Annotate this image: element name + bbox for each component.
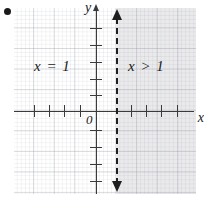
solution-region-shading [117, 8, 196, 194]
y-axis-line [96, 10, 97, 194]
bullet-marker-icon [4, 8, 11, 15]
x-tick-negative-1 [80, 105, 81, 117]
y-axis-arrow-icon [93, 4, 99, 11]
x-tick-negative-3 [34, 105, 35, 117]
y-tick-positive-2 [90, 79, 102, 80]
label-x-axis: x [198, 110, 204, 126]
x-tick-negative-2b [49, 105, 50, 117]
x-tick-negative-2 [64, 105, 65, 117]
y-tick-negative-2 [90, 147, 102, 148]
y-tick-negative-4 [90, 181, 102, 182]
label-y-axis: y [85, 0, 91, 16]
label-equation: x = 1 [34, 58, 71, 75]
y-tick-negative-1 [90, 130, 102, 131]
x-tick-positive-4 [161, 105, 162, 117]
x-tick-positive-5 [177, 105, 178, 117]
y-tick-positive-4 [90, 45, 102, 46]
x-tick-positive-2 [131, 105, 132, 117]
boundary-arrow-up-icon [112, 9, 122, 20]
label-inequality: x > 1 [128, 58, 165, 75]
label-origin: 0 [86, 112, 93, 128]
y-tick-positive-5 [90, 28, 102, 29]
x-axis-line [14, 111, 194, 112]
y-tick-positive-3 [90, 62, 102, 63]
y-tick-positive-1 [90, 95, 102, 96]
boundary-line-x-equals-1 [116, 18, 118, 184]
figure-canvas: x = 1 x > 1 0 x y [0, 0, 204, 200]
x-tick-positive-3 [146, 105, 147, 117]
boundary-arrow-down-icon [112, 181, 122, 192]
y-tick-negative-3 [90, 164, 102, 165]
